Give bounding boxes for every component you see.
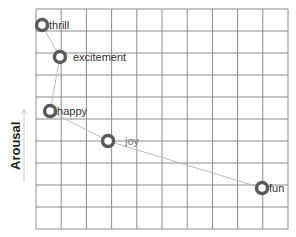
data-labels: thrillexcitementhappyjoyfun bbox=[49, 19, 284, 194]
grid-lines bbox=[36, 9, 288, 229]
data-point-label: fun bbox=[269, 182, 284, 194]
data-point-label: thrill bbox=[49, 19, 69, 31]
data-point-label: excitement bbox=[73, 51, 126, 63]
chart-plot-area: thrillexcitementhappyjoyfun bbox=[0, 0, 296, 237]
data-point-marker bbox=[37, 20, 48, 31]
data-point-marker bbox=[103, 136, 114, 147]
arousal-chart: thrillexcitementhappyjoyfun Arousal bbox=[0, 0, 296, 237]
data-point-label: happy bbox=[57, 105, 87, 117]
data-point-marker bbox=[54, 51, 65, 62]
y-axis-label: Arousal bbox=[8, 130, 24, 170]
data-point-marker bbox=[45, 106, 56, 117]
data-point-label: joy bbox=[124, 135, 140, 147]
data-point-marker bbox=[257, 183, 268, 194]
